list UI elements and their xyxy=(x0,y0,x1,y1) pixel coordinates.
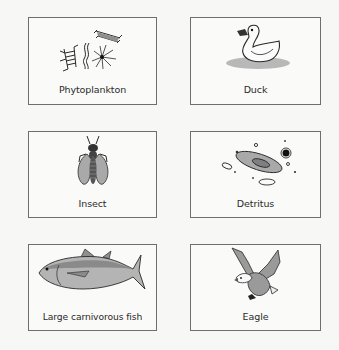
card-large-carnivorous-fish: Large carnivorous fish xyxy=(28,244,157,331)
eagle-icon xyxy=(228,246,288,308)
card-insect: Insect xyxy=(28,131,157,218)
detritus-icon xyxy=(217,136,297,186)
fish-icon xyxy=(37,247,149,295)
card-label: Duck xyxy=(191,84,320,95)
card-phytoplankton: Phytoplankton xyxy=(28,17,157,105)
card-detritus: Detritus xyxy=(190,131,321,218)
card-label: Eagle xyxy=(191,311,320,322)
insect-icon xyxy=(73,134,113,192)
card-label: Detritus xyxy=(191,198,320,209)
card-eagle: Eagle xyxy=(190,244,321,331)
card-duck: Duck xyxy=(190,17,321,105)
phytoplankton-icon xyxy=(56,21,136,76)
card-label: Phytoplankton xyxy=(29,84,156,95)
card-label: Large carnivorous fish xyxy=(29,311,156,322)
duck-icon xyxy=(223,21,293,76)
card-label: Insect xyxy=(29,198,156,209)
